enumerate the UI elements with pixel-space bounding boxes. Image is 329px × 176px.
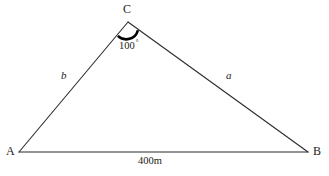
angle-value-number: 100 [119, 40, 135, 51]
vertex-label-b: B [313, 145, 321, 157]
side-label-b: b [61, 70, 67, 81]
vertex-label-a: A [6, 145, 15, 157]
side-label-a: a [226, 70, 232, 81]
triangle-figure-svg [0, 0, 329, 176]
angle-value-label: 100° [119, 39, 139, 51]
base-measure-label: 400m [138, 156, 162, 167]
triangle-diagram: A B C b a 400m 100° [0, 0, 329, 176]
triangle-side-b-line [19, 22, 128, 152]
vertex-label-c: C [123, 3, 131, 15]
triangle-side-a-line [128, 22, 308, 152]
degree-symbol-icon: ° [135, 38, 139, 46]
